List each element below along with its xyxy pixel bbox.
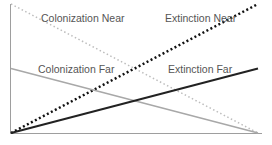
label-colonization-near: Colonization Near [41, 12, 124, 24]
label-colonization-far: Colonization Far [38, 63, 114, 75]
label-extinction-far: Extinction Far [168, 63, 232, 75]
label-extinction-near: Extinction Near [165, 12, 236, 24]
